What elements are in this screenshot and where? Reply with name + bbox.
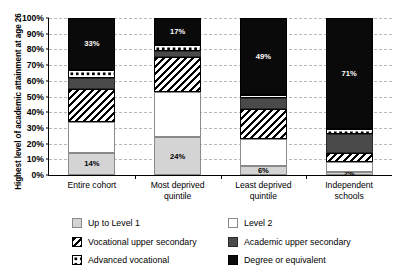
stacked-bar-chart: Highest level of academic attainment at … bbox=[0, 0, 396, 270]
y-axis-tick-label: 80% bbox=[4, 44, 44, 54]
y-axis-tick-label: 20% bbox=[4, 139, 44, 149]
y-axis-tick-label: 10% bbox=[4, 154, 44, 164]
category-label-line1: Independent bbox=[301, 180, 396, 191]
bar-segment-value-label: 24% bbox=[154, 153, 201, 161]
legend-swatch-uptolevel1-icon bbox=[72, 218, 82, 228]
bar-segment-academic[interactable] bbox=[68, 78, 115, 89]
legend-label: Advanced vocational bbox=[88, 255, 169, 265]
legend-item-uptolevel1[interactable]: Up to Level 1 bbox=[72, 215, 197, 231]
x-axis-category-label: Entire cohort bbox=[44, 180, 140, 191]
bar-segment-vocational[interactable] bbox=[68, 89, 115, 122]
y-axis-tick-mark bbox=[46, 33, 49, 34]
legend-item-vocational[interactable]: Vocational upper secondary bbox=[72, 234, 197, 250]
x-axis-tick-mark bbox=[135, 175, 136, 179]
legend-swatch-advanced-icon bbox=[72, 255, 82, 265]
y-axis-tick-mark bbox=[46, 18, 49, 19]
legend-swatch-degree-icon bbox=[228, 255, 238, 265]
y-axis-tick-label: 0% bbox=[4, 170, 44, 180]
bar-segment-academic[interactable] bbox=[326, 134, 373, 153]
chart-legend: Up to Level 1Vocational upper secondaryA… bbox=[0, 215, 396, 270]
legend-label: Vocational upper secondary bbox=[88, 237, 197, 247]
y-axis-tick-label: 90% bbox=[4, 29, 44, 39]
bar-segment-academic[interactable] bbox=[240, 98, 287, 109]
bar-segment-advanced[interactable] bbox=[326, 129, 373, 134]
y-axis-tick-label: 70% bbox=[4, 60, 44, 70]
x-axis-category-label: Most deprivedquintile bbox=[130, 180, 226, 201]
y-axis-tick-mark bbox=[46, 112, 49, 113]
legend-swatch-academic-icon bbox=[228, 237, 238, 247]
legend-item-level2[interactable]: Level 2 bbox=[228, 215, 351, 231]
y-axis-tick-mark bbox=[46, 65, 49, 66]
x-axis-tick-mark bbox=[306, 175, 307, 179]
y-axis-tick-mark bbox=[46, 127, 49, 128]
y-axis-tick-label: 60% bbox=[4, 76, 44, 86]
category-label-line2: schools bbox=[301, 191, 396, 202]
category-label-line1: Least deprived bbox=[215, 180, 311, 191]
legend-item-advanced[interactable]: Advanced vocational bbox=[72, 252, 197, 268]
legend-label: Academic upper secondary bbox=[244, 237, 351, 247]
y-axis-tick-label: 50% bbox=[4, 92, 44, 102]
y-axis-tick-label: 100% bbox=[4, 13, 44, 23]
legend-label: Level 2 bbox=[244, 218, 272, 228]
y-axis-tick-label: 40% bbox=[4, 107, 44, 117]
x-axis-tick-mark bbox=[221, 175, 222, 179]
legend-label: Up to Level 1 bbox=[88, 218, 140, 228]
bar-segment-value-label: 6% bbox=[240, 167, 287, 175]
bar-segment-advanced[interactable] bbox=[154, 45, 201, 51]
bar-segment-level2[interactable] bbox=[326, 162, 373, 171]
bar-segment-vocational[interactable] bbox=[240, 109, 287, 139]
bar-most-deprived[interactable]: 24%17% bbox=[154, 18, 201, 175]
bar-segment-advanced[interactable] bbox=[68, 70, 115, 78]
bar-segment-value-label: 49% bbox=[240, 53, 287, 61]
bar-segment-vocational[interactable] bbox=[326, 153, 373, 162]
legend-item-academic[interactable]: Academic upper secondary bbox=[228, 234, 351, 250]
bar-segment-value-label: 14% bbox=[68, 160, 115, 168]
category-label-line1: Most deprived bbox=[130, 180, 226, 191]
bar-segment-academic[interactable] bbox=[154, 51, 201, 57]
y-axis-tick-mark bbox=[46, 175, 49, 176]
bar-segment-value-label: 17% bbox=[154, 28, 201, 36]
legend-swatch-vocational-icon bbox=[72, 237, 82, 247]
legend-column-left: Up to Level 1Vocational upper secondaryA… bbox=[72, 215, 197, 270]
bar-segment-value-label: 33% bbox=[68, 40, 115, 48]
y-axis-tick-mark bbox=[46, 49, 49, 50]
bar-segment-level2[interactable] bbox=[240, 139, 287, 166]
legend-label: Degree or equivalent bbox=[244, 255, 326, 265]
bar-segment-level2[interactable] bbox=[68, 122, 115, 153]
x-axis-category-label: Independentschools bbox=[301, 180, 396, 201]
bar-segment-advanced[interactable] bbox=[240, 95, 287, 98]
legend-swatch-level2-icon bbox=[228, 218, 238, 228]
category-label-line2: quintile bbox=[130, 191, 226, 202]
y-axis-tick-label: 30% bbox=[4, 123, 44, 133]
y-axis-tick-mark bbox=[46, 96, 49, 97]
legend-column-right: Level 2Academic upper secondaryDegree or… bbox=[228, 215, 351, 270]
y-axis-tick-mark bbox=[46, 159, 49, 160]
y-axis-tick-mark bbox=[46, 143, 49, 144]
category-label-line1: Entire cohort bbox=[44, 180, 140, 191]
bar-segment-value-label: 71% bbox=[326, 70, 373, 78]
category-label-line2: quintile bbox=[215, 191, 311, 202]
bar-segment-level2[interactable] bbox=[154, 92, 201, 138]
bar-independent[interactable]: 2%71% bbox=[326, 18, 373, 175]
legend-item-degree[interactable]: Degree or equivalent bbox=[228, 252, 351, 268]
y-axis-tick-mark bbox=[46, 80, 49, 81]
x-axis-category-label: Least deprivedquintile bbox=[215, 180, 311, 201]
bar-entire-cohort[interactable]: 14%33% bbox=[68, 18, 115, 175]
bar-segment-vocational[interactable] bbox=[154, 57, 201, 92]
bar-least-deprived[interactable]: 6%49% bbox=[240, 18, 287, 175]
plot-area: 100%90%80%70%60%50%40%30%20%10%0% 14%33%… bbox=[48, 18, 392, 176]
